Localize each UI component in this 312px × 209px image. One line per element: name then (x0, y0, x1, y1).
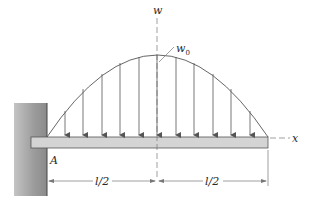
right-span-label: l/2 (205, 175, 219, 188)
w-axis-label: w (153, 4, 163, 17)
load-arrows (65, 55, 250, 135)
w0-label: w0 (176, 42, 190, 57)
point-a-label: A (49, 154, 58, 167)
beam (31, 137, 268, 148)
parabolic-load-curve (47, 55, 268, 137)
x-axis-label: x (292, 132, 299, 145)
w0-label-subscript: 0 (185, 49, 189, 57)
fixed-wall-support (14, 103, 47, 196)
beam-diagram: w w0 x A l/2 l/2 (0, 0, 312, 209)
w0-leader-line (159, 47, 174, 62)
left-span-label: l/2 (95, 175, 109, 188)
diagram-canvas: w w0 x A l/2 l/2 (0, 0, 312, 209)
